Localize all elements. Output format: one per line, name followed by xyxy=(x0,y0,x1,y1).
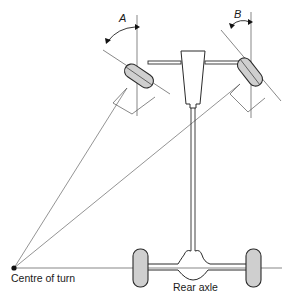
turning-radius-lines xyxy=(14,84,240,268)
angle-a-label: A xyxy=(119,12,126,24)
radius-line-outer-wheel xyxy=(14,84,240,268)
left-tie-rod xyxy=(148,61,181,64)
left-right-angle-bracket xyxy=(113,88,155,114)
steering-diagram xyxy=(0,0,299,301)
radius-line-inner-wheel xyxy=(14,88,127,268)
rear-axle-lower-edge xyxy=(147,270,246,280)
centre-of-turn-label: Centre of turn xyxy=(11,272,75,284)
angle-b-arc xyxy=(232,21,250,25)
steering-gearbox xyxy=(181,51,205,108)
rear-left-wheel xyxy=(133,249,148,287)
angle-b-label: B xyxy=(234,8,241,20)
angle-a-arc xyxy=(108,27,135,41)
angle-b-arrow-right xyxy=(248,19,253,25)
angle-a-arrow-right xyxy=(135,24,140,30)
rear-right-wheel xyxy=(246,249,261,287)
rear-axle-label: Rear axle xyxy=(173,281,218,293)
rear-axle-upper-edge xyxy=(147,251,246,265)
centre-of-turn-point xyxy=(11,265,16,270)
